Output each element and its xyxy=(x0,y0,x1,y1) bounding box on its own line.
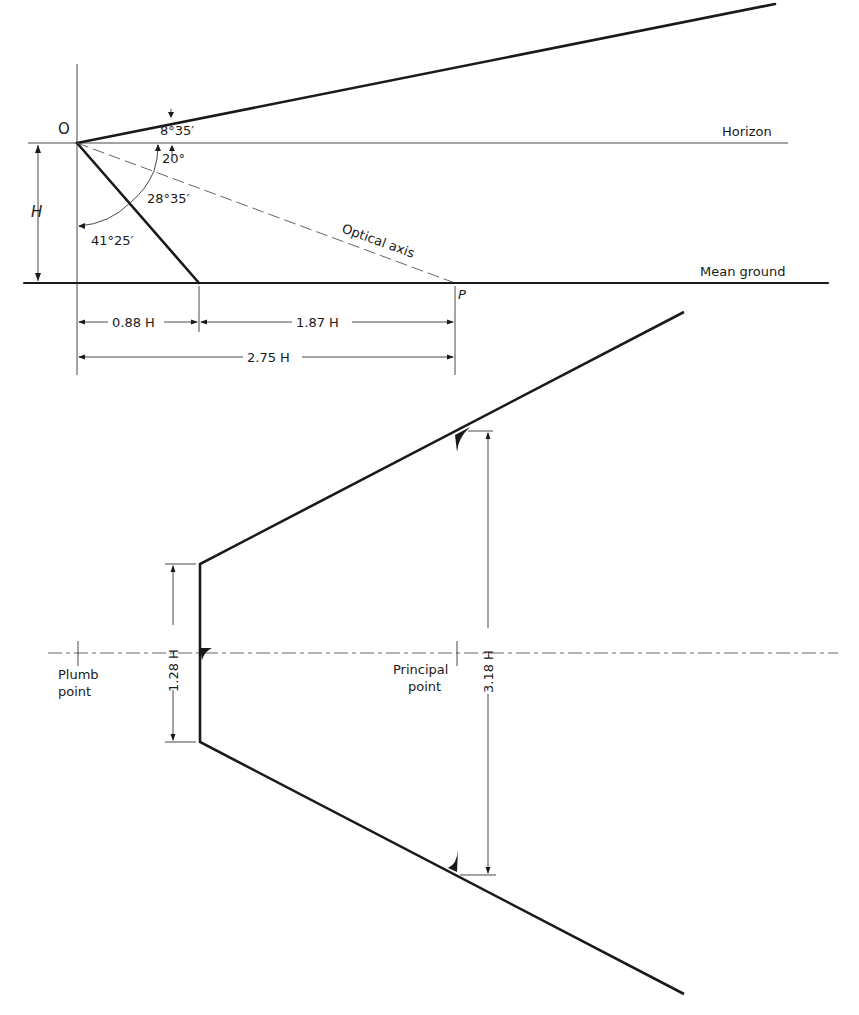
arrow-icon xyxy=(447,320,454,325)
arrow-icon xyxy=(35,273,41,281)
principal-point-label: Principal xyxy=(393,662,448,677)
mean-ground-label: Mean ground xyxy=(700,264,786,279)
plumb-point-label: Plumb xyxy=(58,667,99,682)
angle-28-35-label: 28°35′ xyxy=(147,191,190,206)
arrow-icon xyxy=(78,355,85,360)
edge-tick xyxy=(448,850,458,872)
principal-point-label: point xyxy=(408,679,441,694)
height-label: H xyxy=(31,203,42,221)
dim-2-75-label: 2.75 H xyxy=(247,350,290,365)
arrow-icon xyxy=(200,320,207,325)
dim-3-18-label: 3.18 H xyxy=(481,650,496,693)
arrow-icon xyxy=(168,112,174,118)
principal-ground-point-label: P xyxy=(458,287,466,302)
arrow-icon xyxy=(447,355,454,360)
oblique-photo-diagram: H O 8°35′ 20° 28°35′ 41°25′ Horizon Mean… xyxy=(0,0,859,1015)
dim-1-28-label: 1.28 H xyxy=(166,649,181,692)
arrow-icon xyxy=(35,145,41,153)
plumb-point-label: point xyxy=(58,684,91,699)
angle-41-25-arc xyxy=(79,202,131,226)
point-o-label: O xyxy=(58,120,70,138)
arrow-icon xyxy=(78,223,85,229)
optical-axis-label: Optical axis xyxy=(340,221,417,261)
angle-8-35-label: 8°35′ xyxy=(160,123,194,138)
dim-1-87-label: 1.87 H xyxy=(296,315,339,330)
arrow-icon xyxy=(171,734,176,741)
arrow-icon xyxy=(78,320,85,325)
arrow-icon xyxy=(486,867,491,874)
plan-view: Plumb point Principal point 1.28 H 3.18 … xyxy=(48,312,838,994)
arrow-icon xyxy=(155,144,161,151)
arrow-icon xyxy=(191,320,198,325)
side-view: H O 8°35′ 20° 28°35′ 41°25′ Horizon Mean… xyxy=(24,4,828,375)
dim-0-88-label: 0.88 H xyxy=(112,315,155,330)
optical-axis-line xyxy=(77,143,455,283)
horizon-label: Horizon xyxy=(722,124,772,139)
angle-41-25-label: 41°25′ xyxy=(91,233,134,248)
arrow-icon xyxy=(171,565,176,572)
arrow-icon xyxy=(486,432,491,439)
angle-20-label: 20° xyxy=(162,151,185,166)
edge-tick xyxy=(200,648,212,660)
